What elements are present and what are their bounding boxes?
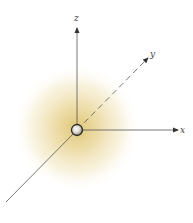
x-axis-label: x: [180, 125, 185, 135]
orbital-diagram: z x y: [0, 0, 193, 223]
nucleus: [72, 125, 83, 136]
y-axis-label: y: [149, 49, 156, 59]
z-axis-label: z: [73, 13, 79, 23]
